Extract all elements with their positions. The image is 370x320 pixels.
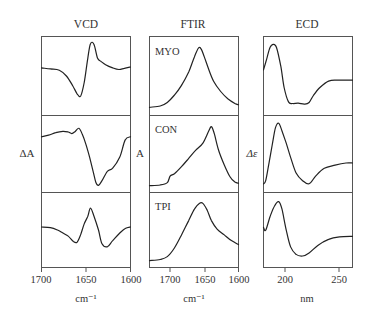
ecd-title: ECD [296, 18, 319, 30]
ecd-xtick: 200 [277, 274, 293, 285]
ftir-xtick: 1600 [229, 274, 250, 285]
vcd-xtick: 1650 [76, 274, 97, 285]
spectra-figure: VCD FTIR ECD ΔA A Δε 1700 1650 1600 1700… [0, 0, 370, 320]
vcd-ylabel: ΔA [19, 147, 34, 159]
spectra-curves [42, 42, 353, 260]
vcd-myo-curve [42, 42, 131, 96]
ecd-xlabel: nm [300, 293, 313, 304]
ftir-xlabel: cm⁻¹ [183, 293, 205, 304]
ecd-myo-curve [264, 44, 353, 104]
vcd-tpi-curve [42, 208, 131, 247]
panel-label-myo: MYO [155, 46, 180, 57]
ecd-tpi-curve [264, 202, 353, 257]
ecd-frame [264, 37, 353, 268]
ecd-ylabel: Δε [246, 147, 258, 159]
vcd-xtick: 1600 [121, 274, 142, 285]
vcd-xtick: 1700 [31, 274, 52, 285]
ftir-title: FTIR [181, 18, 206, 30]
ecd-con-curve [264, 123, 353, 184]
ftir-ylabel: A [136, 147, 144, 159]
ftir-con-curve [150, 127, 239, 186]
panel-label-con: CON [155, 124, 178, 135]
vcd-con-curve [42, 128, 131, 185]
vcd-title: VCD [74, 18, 98, 30]
panel-label-tpi: TPI [155, 201, 171, 212]
ecd-xtick: 250 [331, 274, 347, 285]
ftir-xtick: 1700 [160, 274, 181, 285]
vcd-xlabel: cm⁻¹ [75, 293, 97, 304]
ftir-xtick: 1650 [195, 274, 216, 285]
